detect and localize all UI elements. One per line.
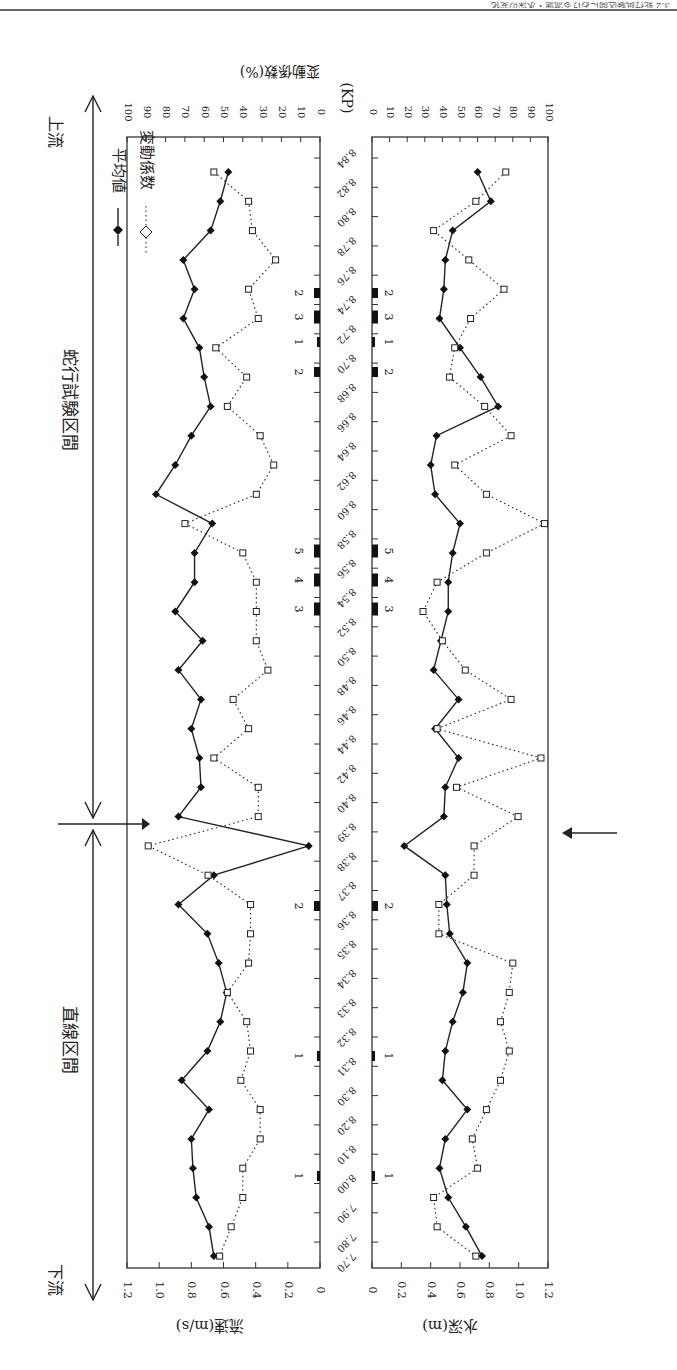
mean-marker: [441, 1047, 449, 1055]
mean-marker: [215, 959, 223, 967]
velocity-tick-label: 0: [314, 1287, 327, 1294]
mean-marker: [200, 373, 208, 381]
cv-tick-label: 10: [296, 106, 307, 119]
depth-tick-label: 1.0: [513, 1281, 526, 1299]
cv-marker: [475, 1165, 481, 1171]
cv-marker: [246, 198, 252, 204]
drop-structure-count: 2: [382, 290, 395, 297]
cv-tick-label: 30: [420, 106, 431, 119]
cv-marker: [436, 931, 442, 937]
kp-label: 8.78: [335, 235, 359, 259]
cv-marker: [273, 257, 279, 263]
cv-tick-label: 80: [508, 106, 519, 119]
kp-label: 8.56: [335, 557, 359, 581]
mean-marker: [444, 578, 452, 586]
mean-marker: [187, 725, 195, 733]
cv-marker: [538, 755, 544, 761]
cv-tick-label: 100: [544, 102, 555, 121]
kp-label: 8.74: [335, 293, 359, 317]
velocity-tick-label: 0.2: [282, 1281, 295, 1299]
cv-marker: [503, 169, 509, 175]
drop-structure-count: 2: [292, 369, 305, 376]
drop-structure-marker: [314, 603, 320, 616]
depth-cv-line: [423, 172, 544, 1256]
drop-structure-count: 1: [292, 1173, 305, 1180]
depth-plot-frame: [372, 137, 548, 1268]
drop-structure-count: 1: [382, 1053, 395, 1060]
cv-marker: [257, 1136, 263, 1142]
kp-label: 8.68: [335, 381, 359, 405]
cv-marker: [255, 316, 261, 322]
mean-marker: [216, 1018, 224, 1026]
drop-structure-count: 3: [292, 314, 305, 321]
velocity-tick-label: 0.6: [218, 1281, 231, 1299]
mean-marker: [216, 197, 224, 205]
drop-structure-count: 2: [382, 369, 395, 376]
kp-label: 8.37: [335, 879, 359, 903]
kp-label: 8.32: [335, 1026, 359, 1050]
cv-marker: [446, 374, 452, 380]
cv-marker: [246, 960, 252, 966]
kp-label: 8.72: [335, 323, 359, 347]
mean-marker: [459, 988, 467, 996]
kp-label: 8.76: [335, 264, 359, 288]
mean-marker: [208, 520, 216, 528]
cv-marker: [471, 843, 477, 849]
cv-marker: [501, 286, 507, 292]
cv-marker: [468, 316, 474, 322]
cv-marker: [211, 169, 217, 175]
depth-tick-label: 0.6: [454, 1281, 467, 1299]
depth-mean-line: [404, 172, 498, 1256]
chart-canvas: 8.848.828.808.788.768.748.728.708.688.66…: [0, 0, 677, 1370]
kp-label: 8.35: [335, 938, 359, 962]
cv-marker: [431, 1195, 437, 1201]
mean-marker: [462, 1223, 470, 1231]
depth-tick-label: 1.2: [542, 1281, 555, 1299]
velocity-cv-line: [148, 172, 275, 1256]
cv-marker: [213, 345, 219, 351]
velocity-tick-label: 1.2: [121, 1281, 134, 1299]
mean-marker: [449, 549, 457, 557]
velocity-mean-line: [156, 172, 309, 1256]
cv-marker: [436, 902, 442, 908]
cv-marker: [497, 1077, 503, 1083]
kp-label: 8.00: [335, 1172, 359, 1196]
drop-structure-count: 1: [292, 339, 305, 346]
cv-marker: [253, 579, 259, 585]
mean-marker: [187, 432, 195, 440]
drop-structure-marker: [372, 603, 378, 616]
cv-marker: [473, 198, 479, 204]
cv-marker: [253, 491, 259, 497]
cv-marker: [246, 286, 252, 292]
cv-marker: [469, 1136, 475, 1142]
drop-structure-marker: [372, 311, 378, 324]
cv-marker: [257, 1107, 263, 1113]
legend-cv-label: 変動係数: [138, 130, 156, 190]
arrow-right-icon: [142, 818, 150, 830]
cv-tick-label: 20: [403, 106, 414, 119]
cv-marker: [248, 902, 254, 908]
cv-tick-label: 0: [316, 109, 327, 115]
drop-structure-marker: [317, 1171, 320, 1181]
mean-marker: [189, 1164, 197, 1172]
cv-marker: [271, 462, 277, 468]
cv-marker: [249, 228, 255, 234]
mean-marker: [444, 608, 452, 616]
cv-marker: [240, 550, 246, 556]
cv-marker: [434, 579, 440, 585]
cv-marker: [246, 726, 252, 732]
mean-marker: [494, 402, 502, 410]
cv-marker: [508, 696, 514, 702]
drop-structure-count: 2: [292, 903, 305, 910]
kp-label: 8.80: [335, 206, 359, 230]
cv-tick-label: 30: [258, 106, 269, 119]
cv-tick-label: 60: [473, 106, 484, 119]
depth-tick-label: 0.2: [395, 1281, 408, 1299]
drop-structure-marker: [314, 574, 320, 587]
cv-tick-label: 80: [161, 106, 172, 119]
kp-label: 8.48: [335, 674, 359, 698]
cv-marker: [473, 1253, 479, 1259]
mean-marker: [191, 549, 199, 557]
cv-marker: [230, 696, 236, 702]
drop-structure-marker: [372, 901, 378, 911]
